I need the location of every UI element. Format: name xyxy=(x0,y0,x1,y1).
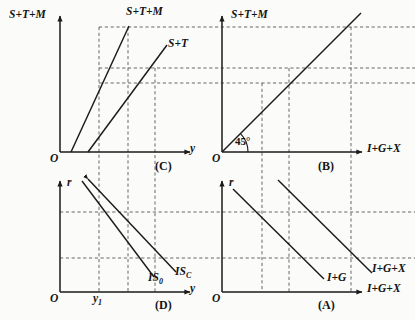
curve-label-i-g-x: I+G+X xyxy=(372,263,406,275)
dashed-guide-lines xyxy=(60,27,415,292)
curve-label-isc: ISC xyxy=(175,266,191,280)
quadrant-b-tag: (B) xyxy=(318,160,334,172)
curve-label-is0-base: IS xyxy=(148,271,159,283)
quadrant-a-group xyxy=(222,180,372,292)
quadrant-b-y-axis-label: S+T+M xyxy=(231,9,268,21)
curve-i-g-x-line xyxy=(278,180,372,273)
curve-label-s-t: S+T xyxy=(168,38,188,50)
quadrant-a-x-axis-label: I+G+X xyxy=(367,283,401,295)
quadrant-d-tag: (D) xyxy=(155,299,172,311)
quadrant-a-origin-label: O xyxy=(212,293,220,305)
curve-i-g-line xyxy=(233,189,324,279)
diagram-canvas xyxy=(0,0,415,320)
quadrant-d-tick-label: y1 xyxy=(93,293,102,307)
quadrant-c-tag: (C) xyxy=(155,160,172,172)
curve-is0-line xyxy=(82,181,154,277)
quadrant-c-x-axis-label: y xyxy=(190,143,195,155)
quadrant-b-origin-label: O xyxy=(212,153,220,165)
angle-label-45-degrees: 45° xyxy=(235,136,250,147)
curve-label-is0: IS0 xyxy=(148,272,163,286)
curve-45-degree-line xyxy=(222,13,361,152)
quadrant-d-y-axis-label: r xyxy=(67,177,71,189)
curve-label-isc-base: IS xyxy=(175,265,186,277)
curve-label-is0-subscript: 0 xyxy=(159,277,163,286)
quadrant-a-y-axis-label: r xyxy=(229,177,233,189)
curve-label-s-t-m: S+T+M xyxy=(126,6,163,18)
quadrant-c-origin-label: O xyxy=(50,153,58,165)
curve-s-t-m-line xyxy=(71,26,129,152)
quadrant-c-y-axis-label: S+T+M xyxy=(9,9,46,21)
quadrant-d-group xyxy=(60,179,190,292)
quadrant-d-origin-label: O xyxy=(50,293,58,305)
four-quadrant-diagram: S+T+M y O S+T+M S+T (C) S+T+M I+G+X O 45… xyxy=(0,0,415,320)
quadrant-b-x-axis-label: I+G+X xyxy=(367,143,401,155)
quadrant-d-x-axis-label: y xyxy=(190,283,195,295)
quadrant-a-tag: (A) xyxy=(318,299,335,311)
curve-label-i-g: I+G xyxy=(327,272,346,284)
curve-label-isc-subscript: C xyxy=(186,271,191,280)
quadrant-b-group xyxy=(222,13,362,152)
tick-label-subscript: 1 xyxy=(98,298,102,307)
